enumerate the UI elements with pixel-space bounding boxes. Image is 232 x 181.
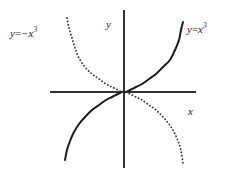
x-axis-label: x — [188, 106, 193, 117]
curve-label-x-cubed: y=x3 — [187, 22, 207, 35]
curve-label-negative-x-cubed: y=−x3 — [10, 26, 37, 39]
label-pos-exponent: 3 — [203, 21, 207, 30]
label-neg-exponent: 3 — [33, 25, 37, 34]
label-neg-base: −x — [21, 27, 33, 39]
y-axis-label: y — [106, 19, 111, 30]
cubic-functions-figure: y=−x3 y=x3 y x — [0, 0, 232, 181]
